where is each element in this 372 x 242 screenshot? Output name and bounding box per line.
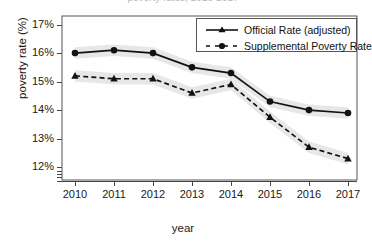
series-line-2 bbox=[75, 76, 348, 159]
data-point bbox=[150, 50, 157, 57]
legend-entry-2: Supplemental Poverty Rate bbox=[205, 40, 372, 52]
legend-label: Official Rate (adjusted) bbox=[244, 24, 351, 36]
data-point bbox=[345, 110, 352, 117]
data-point bbox=[111, 47, 118, 54]
legend-label: Supplemental Poverty Rate bbox=[244, 40, 372, 52]
legend-entry-1: Official Rate (adjusted) bbox=[205, 24, 351, 36]
chart-legend: Official Rate (adjusted)Supplemental Pov… bbox=[196, 18, 357, 52]
legend-marker-triangle-icon bbox=[205, 24, 239, 36]
data-point bbox=[72, 50, 79, 57]
data-point bbox=[189, 64, 196, 71]
data-point bbox=[306, 107, 313, 114]
data-point bbox=[228, 70, 235, 77]
legend-marker-circle-icon bbox=[205, 40, 239, 52]
data-point bbox=[267, 98, 274, 105]
confidence-band-2 bbox=[75, 70, 348, 164]
